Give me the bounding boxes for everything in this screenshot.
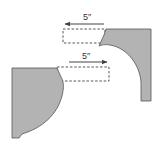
top-shift-label: 5″ — [83, 12, 91, 22]
shift-diagram: 5″ 5″ — [0, 0, 159, 146]
bottom-dashed-outline — [57, 67, 109, 81]
diagram-canvas — [0, 0, 159, 146]
left-bulge-shape — [12, 68, 63, 138]
top-dashed-outline — [63, 29, 105, 43]
bottom-shift-label: 5″ — [82, 51, 90, 61]
right-arch-shape — [99, 29, 151, 101]
